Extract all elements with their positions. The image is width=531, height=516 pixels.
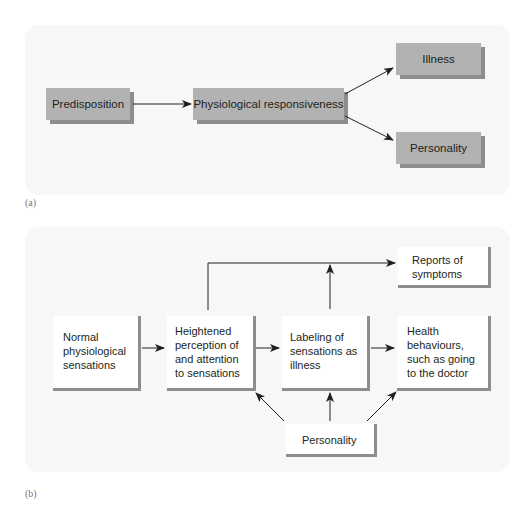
node-predisposition: Predisposition — [46, 88, 130, 120]
node-label: Reports of symptoms — [412, 253, 488, 281]
node-labeling: Labeling of sensations as illness — [282, 316, 370, 391]
node-heightened-perception: Heightened perception of and attention t… — [167, 316, 256, 391]
node-illness: Illness — [396, 43, 481, 75]
node-label: Heightened perception of and attention t… — [175, 324, 253, 380]
panel-a-label: (a) — [25, 197, 36, 208]
node-label: Illness — [422, 53, 455, 65]
node-label: Labeling of sensations as illness — [290, 330, 367, 372]
node-label: Physiological responsiveness — [193, 98, 343, 110]
node-label: Personality — [302, 433, 374, 447]
node-label: Normal physiological sensations — [63, 330, 138, 372]
node-reports-of-symptoms: Reports of symptoms — [398, 247, 491, 288]
panel-b-label: (b) — [25, 488, 37, 499]
node-label: Health behaviours, such as going to the … — [407, 324, 488, 380]
node-physiological-responsiveness: Physiological responsiveness — [193, 88, 344, 120]
node-label: Personality — [410, 142, 467, 154]
node-normal-sensations: Normal physiological sensations — [53, 316, 141, 391]
node-health-behaviours: Health behaviours, such as going to the … — [397, 316, 491, 391]
node-personality-a: Personality — [396, 132, 481, 164]
node-personality-b: Personality — [286, 424, 377, 457]
node-label: Predisposition — [52, 98, 124, 110]
